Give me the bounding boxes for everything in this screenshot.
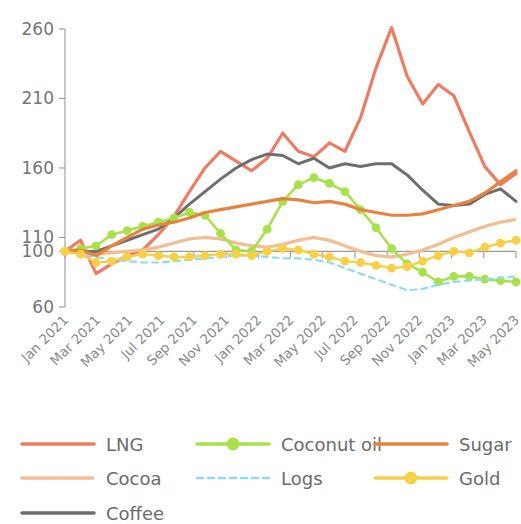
x-axis-labels: Jan 2021Mar 2021May 2021Jul 2021Sep 2021… [17,312,521,370]
y-tick-label: 260 [22,19,54,39]
series-marker-coconut-oil [418,268,427,277]
series-marker-coconut-oil [512,278,521,287]
series-marker-gold [107,257,116,266]
series-line-coconut-oil [65,178,516,282]
legend-label: Coffee [106,503,164,524]
series-marker-coconut-oil [107,230,116,239]
series-marker-gold [387,264,396,273]
series-marker-gold [169,253,178,262]
series-marker-coconut-oil [123,226,132,235]
series-line-coffee [65,154,516,251]
legend-label: Gold [459,468,500,489]
series-marker-gold [294,246,303,255]
y-tick-label: 110 [22,227,54,247]
series-marker-gold [418,257,427,266]
legend-label: Coconut oil [281,434,382,455]
series-marker-gold [201,251,210,260]
series-marker-gold [512,236,521,245]
series-marker-coconut-oil [309,173,318,182]
series-marker-coconut-oil [387,244,396,253]
legend-item-coffee[interactable]: Coffee [22,503,164,524]
series-marker-gold [263,247,272,256]
series-marker-coconut-oil [92,241,101,250]
legend-item-lng[interactable]: LNG [22,434,143,455]
series-marker-coconut-oil [263,225,272,234]
series-marker-gold [247,251,256,260]
series-marker-gold [309,250,318,259]
series-marker-gold [216,250,225,259]
series-marker-gold [434,251,443,260]
series-marker-gold [232,250,241,259]
series-marker-gold [76,250,85,259]
legend-label: Logs [281,468,323,489]
series-marker-gold [138,250,147,259]
series-marker-gold [449,247,458,256]
chart-legend: LNGCocoaCoffeeCoconut oilLogsSugarGold [22,434,512,524]
series-marker-coconut-oil [449,272,458,281]
series-marker-gold [325,253,334,262]
series-marker-gold [278,244,287,253]
series-marker-gold [341,257,350,266]
series-marker-gold [465,248,474,257]
series-marker-gold [481,243,490,252]
series-marker-coconut-oil [294,180,303,189]
series-marker-coconut-oil [216,229,225,238]
series-marker-coconut-oil [372,223,381,232]
series-marker-gold [356,258,365,267]
legend-item-gold[interactable]: Gold [375,468,500,489]
chart-container: 60100110160210260 Jan 2021Mar 2021May 20… [0,0,521,524]
legend-label: Sugar [459,434,512,455]
series-line-lng [65,28,516,274]
legend-label: LNG [106,434,143,455]
line-chart: 60100110160210260 Jan 2021Mar 2021May 20… [0,0,521,524]
legend-swatch-marker [405,472,418,485]
series-marker-gold [123,253,132,262]
y-tick-label: 60 [32,297,54,317]
series-marker-coconut-oil [341,187,350,196]
y-tick-label: 210 [22,88,54,108]
series-marker-coconut-oil [325,179,334,188]
legend-label: Cocoa [106,468,162,489]
series-marker-gold [496,239,505,248]
y-axis: 60100110160210260 [22,19,65,317]
series-marker-gold [61,247,70,256]
series-marker-gold [403,262,412,271]
y-tick-group: 60100110160210260 [22,19,65,317]
y-tick-label: 160 [22,158,54,178]
legend-item-cocoa[interactable]: Cocoa [22,468,162,489]
legend-item-logs[interactable]: Logs [197,468,323,489]
legend-swatch-marker [227,438,240,451]
series-marker-gold [372,261,381,270]
legend-item-sugar[interactable]: Sugar [375,434,512,455]
series-marker-gold [154,251,163,260]
series-marker-gold [92,258,101,267]
legend-item-coconut-oil[interactable]: Coconut oil [197,434,382,455]
series-marker-gold [185,253,194,262]
